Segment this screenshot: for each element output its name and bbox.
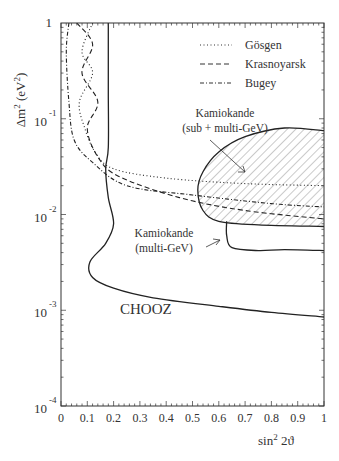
- series-kamiokande-sub-multi-gev: [198, 128, 324, 227]
- x-tick-label: 0.1: [80, 411, 95, 425]
- y-tick-exponent: -4: [49, 395, 57, 405]
- arrow-kamiokande-multi: [206, 240, 220, 247]
- y-tick-exponent: -3: [49, 299, 57, 309]
- x-tick-label: 0.6: [211, 411, 226, 425]
- legend-item-krasnoyarsk: Krasnoyarsk: [245, 57, 306, 71]
- y-tick-label: 1: [46, 15, 53, 30]
- y-tick-labels: 10-410-310-210-11: [34, 15, 57, 416]
- y-axis-label: Δm2 (eV2): [12, 73, 28, 128]
- x-axis-label: sin2 2ϑ: [258, 432, 294, 448]
- y-tick-exponent: -1: [49, 108, 57, 118]
- annotation-kamiokande-sub-line2: (sub + multi-GeV): [182, 122, 268, 135]
- x-tick-label: 0.2: [106, 411, 121, 425]
- x-tick-label: 0.5: [185, 411, 200, 425]
- y-tick-label: 10: [34, 305, 47, 320]
- y-tick-label: 10: [34, 401, 47, 416]
- x-tick-label: 0.7: [238, 411, 253, 425]
- x-tick-label: 1: [321, 411, 327, 425]
- y-tick-label: 10: [34, 114, 47, 129]
- exclusion-plot: 10-410-310-210-11 00.10.20.30.40.50.60.7…: [0, 0, 339, 461]
- legend-item-bugey: Bugey: [245, 76, 276, 90]
- annotation-kamiokande-multi-line1: Kamiokande: [135, 227, 194, 239]
- x-tick-labels: 00.10.20.30.40.50.60.70.80.91: [58, 411, 327, 425]
- x-tick-label: 0: [58, 411, 64, 425]
- x-tick-label: 0.9: [290, 411, 305, 425]
- annotation-chooz: CHOOZ: [120, 301, 172, 317]
- legend-item-gosgen: Gösgen: [245, 38, 282, 52]
- legend: Gösgen Krasnoyarsk Bugey: [200, 38, 306, 90]
- annotation-kamiokande-multi-line2: (multi-GeV): [135, 242, 193, 255]
- x-tick-label: 0.4: [159, 411, 174, 425]
- x-tick-label: 0.3: [132, 411, 147, 425]
- y-tick-exponent: -2: [49, 204, 57, 214]
- annotation-kamiokande-sub-line1: Kamiokande: [196, 107, 255, 119]
- y-tick-label: 10: [34, 210, 47, 225]
- x-tick-label: 0.8: [264, 411, 279, 425]
